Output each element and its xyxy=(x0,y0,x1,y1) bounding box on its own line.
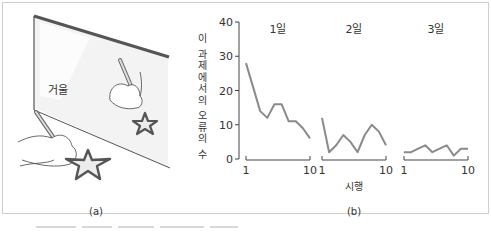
y-tick-label: 10 xyxy=(219,119,233,132)
series-line xyxy=(404,145,468,155)
y-axis-label-char: 서 xyxy=(198,83,207,94)
x-tick-label: 10 xyxy=(461,164,475,177)
y-axis-label-char: 에 xyxy=(198,72,207,83)
mirror-label: 거울 xyxy=(48,84,68,97)
x-tick-label: 1 xyxy=(243,164,250,177)
y-axis-label-char: 과 xyxy=(198,49,207,60)
y-tick-label: 30 xyxy=(219,50,233,63)
y-tick-label: 40 xyxy=(219,16,233,29)
x-tick-label: 10 xyxy=(379,164,393,177)
x-tick-label: 1 xyxy=(319,164,326,177)
cut-off-caption xyxy=(0,222,491,233)
panel-label-b: (b) xyxy=(347,206,361,217)
series-line xyxy=(246,63,310,138)
y-axis-label-char: 류 xyxy=(198,122,207,133)
y-axis-label-char: 오 xyxy=(198,110,207,121)
y-tick-label: 0 xyxy=(226,153,233,166)
y-axis-label-char: 제 xyxy=(198,60,207,71)
y-axis-label-char: 수 xyxy=(198,149,207,160)
y-ticks: 010203040 xyxy=(219,16,239,166)
y-tick-label: 20 xyxy=(219,85,233,98)
panel-1: 1101일 xyxy=(243,22,318,177)
error-chart: 이 과제에서의 오류의 수 010203040 1101일1102일1103일 … xyxy=(198,16,476,217)
y-axis-label: 이 과제에서의 오류의 수 xyxy=(198,33,207,160)
y-axis-label-char: 의 xyxy=(198,133,207,144)
panel-title: 3일 xyxy=(428,22,445,36)
figure-canvas: 거울 (a) 이 과제에서의 오류의 수 010203040 1101일1102… xyxy=(0,0,491,233)
panel-title: 2일 xyxy=(346,22,363,36)
x-axis-label: 시행 xyxy=(345,181,363,192)
panel-2: 1102일 xyxy=(319,22,394,177)
x-tick-label: 10 xyxy=(303,164,317,177)
x-tick-label: 1 xyxy=(401,164,408,177)
y-axis-label-char: 이 xyxy=(198,33,207,44)
series-line xyxy=(322,118,386,152)
panel-label-a: (a) xyxy=(89,206,103,217)
panel-3: 1103일 xyxy=(401,22,476,177)
y-axis-label-char: 의 xyxy=(198,95,207,106)
mirror-illustration: 거울 (a) xyxy=(18,16,170,217)
panel-title: 1일 xyxy=(270,22,287,36)
